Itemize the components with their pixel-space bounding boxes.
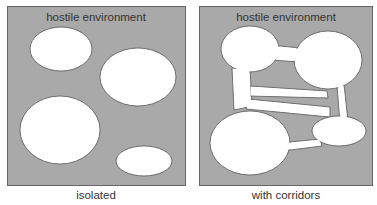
panel-with-corridors: hostile environment with corridors [200, 7, 373, 202]
panel-caption: isolated [76, 189, 116, 201]
habitat-patch [221, 26, 279, 72]
habitat-patch [312, 116, 366, 146]
habitat-patch [116, 146, 172, 176]
habitat-patch [294, 31, 362, 89]
panel-caption: with corridors [251, 189, 321, 201]
panel-title: hostile environment [236, 11, 337, 23]
habitat-diagram: hostile environment isolated hostile env… [0, 0, 377, 205]
habitat-patch [210, 111, 290, 175]
habitat-patch [20, 96, 100, 164]
habitat-patch [30, 27, 92, 71]
panel-isolated: hostile environment isolated [8, 7, 186, 202]
habitat-patch [100, 48, 176, 106]
panel-title: hostile environment [46, 11, 147, 23]
